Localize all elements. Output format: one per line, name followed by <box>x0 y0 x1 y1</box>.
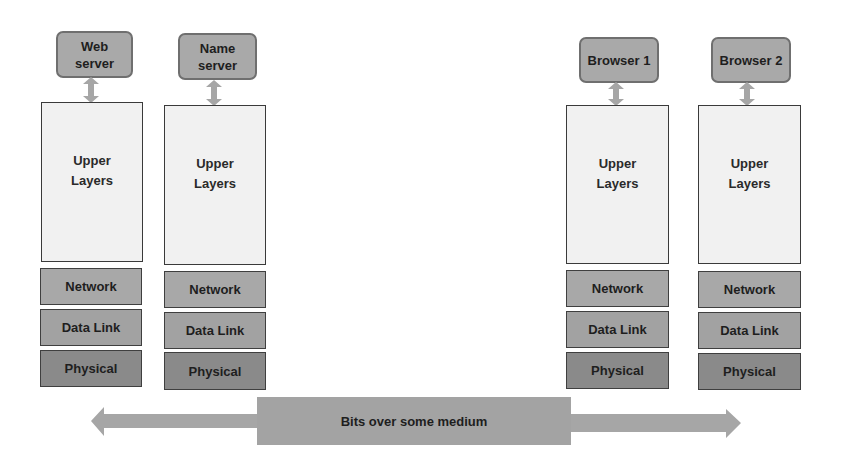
medium-label-box: Bits over some medium <box>257 397 571 445</box>
